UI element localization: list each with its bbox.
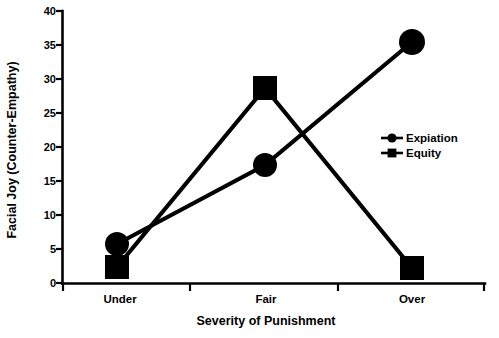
chart-figure: 40 35 30 25 20 15 10 5 0: [0, 0, 499, 338]
y-tick-label: 30: [44, 73, 56, 85]
x-tick-label-over: Over: [399, 293, 426, 305]
y-tick-label: 35: [44, 39, 56, 51]
y-tick-label: 25: [44, 107, 56, 119]
data-point-equity-fair: [253, 76, 277, 100]
legend-item-expiation: Expiation: [381, 132, 458, 144]
y-tick-label: 10: [44, 209, 56, 221]
data-point-expiation-over: [399, 29, 425, 55]
legend-item-equity: Equity: [381, 147, 442, 159]
y-tick-label: 40: [44, 5, 56, 17]
series-markers-equity: [105, 76, 424, 280]
y-tick-label: 20: [44, 141, 56, 153]
data-point-expiation-under: [105, 232, 129, 256]
x-tick-label-fair: Fair: [255, 293, 277, 305]
data-point-equity-over: [400, 256, 424, 280]
y-axis-title: Facial Joy (Counter-Empathy): [5, 61, 19, 238]
data-point-expiation-fair: [253, 153, 277, 177]
x-axis-category-labels: Under Fair Over: [103, 293, 425, 305]
x-axis-title: Severity of Punishment: [197, 314, 337, 328]
y-tick-label: 15: [44, 175, 56, 187]
y-axis-tick-labels: 40 35 30 25 20 15 10 5 0: [44, 5, 56, 289]
legend-circle-icon: [387, 133, 396, 142]
x-tick-label-under: Under: [103, 293, 137, 305]
legend-square-icon: [388, 149, 397, 158]
data-point-equity-under: [105, 255, 129, 279]
y-tick-label: 0: [50, 277, 56, 289]
legend-label-expiation: Expiation: [406, 132, 458, 144]
y-tick-label: 5: [50, 243, 56, 255]
legend-label-equity: Equity: [406, 147, 442, 159]
chart-legend: Expiation Equity: [381, 132, 458, 159]
y-axis-ticks: [56, 11, 62, 283]
line-chart-canvas: 40 35 30 25 20 15 10 5 0: [0, 0, 499, 338]
series-line-equity: [117, 88, 412, 268]
